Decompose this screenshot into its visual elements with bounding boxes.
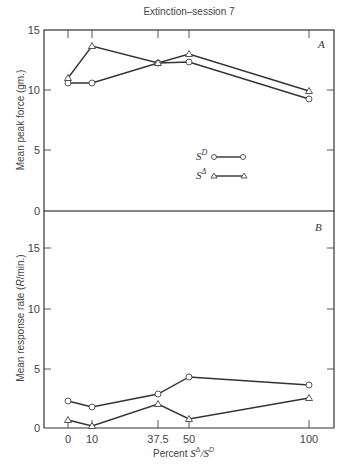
x-tick-labels: 0 10 37.5 50 100 bbox=[65, 433, 318, 445]
x-tick-37-5: 37.5 bbox=[147, 433, 168, 445]
x-tick-50: 50 bbox=[183, 433, 195, 445]
x-tick-0: 0 bbox=[65, 433, 71, 445]
panel-a-frame bbox=[44, 30, 334, 211]
x-axis-title: Percent SΔ/SD bbox=[153, 446, 214, 459]
panel-b-y-axis-title: Mean response rate (R/min.) bbox=[15, 254, 26, 381]
y-tick-a-0: 0 bbox=[34, 205, 40, 217]
legend-sd-label: SD bbox=[196, 148, 208, 162]
legend: SD SΔ bbox=[196, 148, 247, 181]
y-tick-b-10: 10 bbox=[28, 303, 40, 315]
y-tick-a-15: 15 bbox=[28, 24, 40, 36]
panel-a-top-ticks bbox=[68, 30, 309, 38]
y-tick-b-0: 0 bbox=[34, 422, 40, 434]
chart-title: Extinction–session 7 bbox=[143, 6, 235, 17]
figure: Extinction–session 7 A B 15 10 5 0 Mean … bbox=[0, 0, 350, 466]
panel-b-y-axis: 15 10 5 0 bbox=[28, 242, 334, 434]
x-tick-100: 100 bbox=[300, 433, 318, 445]
panel-a-label: A bbox=[317, 38, 325, 50]
x-tick-10: 10 bbox=[86, 433, 98, 445]
y-tick-b-15: 15 bbox=[28, 242, 40, 254]
y-tick-a-5: 5 bbox=[34, 144, 40, 156]
series-a-sdelta-markers bbox=[65, 43, 313, 94]
legend-circle-icon bbox=[212, 155, 217, 160]
y-tick-b-5: 5 bbox=[34, 363, 40, 375]
legend-sdelta-label: SΔ bbox=[196, 167, 207, 181]
series-b-sd-line bbox=[68, 377, 309, 407]
panel-a-y-axis: 15 10 5 0 bbox=[28, 24, 334, 217]
panel-a-y-axis-title: Mean peak force (gm.) bbox=[15, 70, 26, 171]
y-tick-a-10: 10 bbox=[28, 84, 40, 96]
panel-b-label: B bbox=[315, 221, 322, 233]
